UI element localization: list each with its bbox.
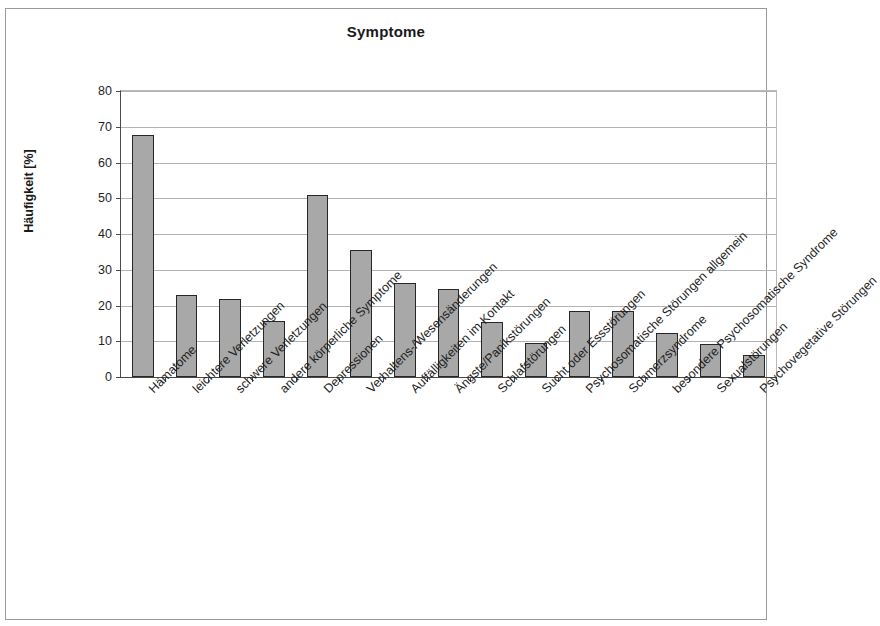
y-axis-tick-mark xyxy=(116,127,121,128)
y-axis-title: Häufigkeit [%] xyxy=(22,106,36,276)
x-axis-label-wrapper: Auffälligkeiten im Kontakt xyxy=(408,386,418,396)
x-axis-label-wrapper: Verhaltens-/Wesensänderungen xyxy=(364,386,374,396)
x-axis-label-wrapper: andere körperliche Symptome xyxy=(277,386,287,396)
y-axis-tick-mark xyxy=(116,270,121,271)
gridline xyxy=(121,234,776,235)
x-axis-labels: Hämatomeleichtere Verletzungenschwere Ve… xyxy=(120,380,777,610)
y-axis-tick-mark xyxy=(116,163,121,164)
x-axis-label-wrapper: Sucht oder Essstörungen xyxy=(539,386,549,396)
y-axis-tick-label: 40 xyxy=(98,227,112,241)
y-axis-tick-label: 80 xyxy=(98,84,112,98)
x-axis-label-wrapper: schwere Verletzungen xyxy=(233,386,243,396)
y-axis-tick-label: 0 xyxy=(105,370,112,384)
chart-title: Symptome xyxy=(6,23,766,40)
x-axis-label-wrapper: Depressionen xyxy=(321,386,331,396)
gridline xyxy=(121,127,776,128)
y-axis-tick-label: 10 xyxy=(98,334,112,348)
x-axis-label-wrapper: Schlafstörungen xyxy=(495,386,505,396)
x-axis-label-wrapper: Schmerzsyndrome xyxy=(626,386,636,396)
y-axis-tick-mark xyxy=(116,234,121,235)
y-axis-tick-label: 60 xyxy=(98,156,112,170)
y-axis-tick-label: 30 xyxy=(98,263,112,277)
y-axis-tick-mark xyxy=(116,198,121,199)
y-axis-tick-label: 50 xyxy=(98,191,112,205)
x-axis-label-wrapper: besondere Psychosomatische Syndrome xyxy=(670,386,680,396)
gridline xyxy=(121,91,776,92)
x-axis-label-wrapper: Sexualstörungen xyxy=(714,386,724,396)
gridline xyxy=(121,198,776,199)
chart-figure: Symptome Häufigkeit [%] 8070605040302010… xyxy=(5,8,767,620)
bar xyxy=(132,135,154,377)
y-axis-tick-mark xyxy=(116,377,121,378)
y-axis-tick-mark xyxy=(116,341,121,342)
gridline xyxy=(121,270,776,271)
x-axis-label-wrapper: Ängste/Panikstörungen xyxy=(452,386,462,396)
gridline xyxy=(121,163,776,164)
y-axis-tick-label: 20 xyxy=(98,299,112,313)
y-axis-tick-label: 70 xyxy=(98,120,112,134)
y-axis-tick-mark xyxy=(116,91,121,92)
x-axis-label-wrapper: Hämatome xyxy=(146,386,156,396)
x-axis-label-wrapper: Psychovegetative Störungen xyxy=(757,386,767,396)
y-axis-tick-mark xyxy=(116,306,121,307)
x-axis-label-wrapper: Psychosomatische Störungen allgemein xyxy=(583,386,593,396)
x-axis-label-wrapper: leichtere Verletzungen xyxy=(190,386,200,396)
